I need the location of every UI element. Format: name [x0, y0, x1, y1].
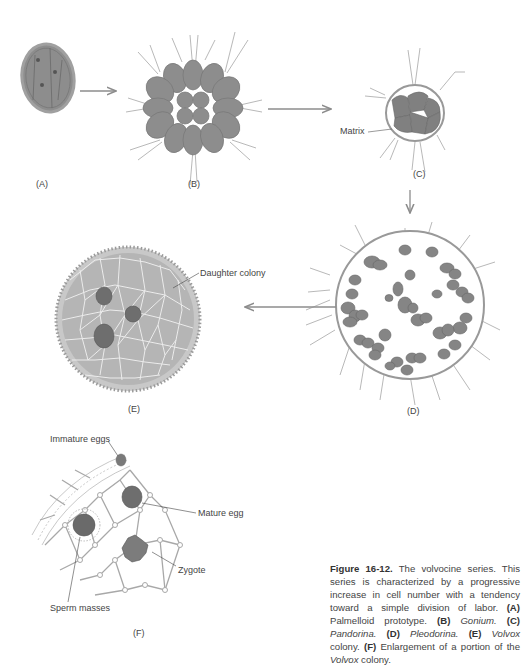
caption-item-c: Pandorina.: [330, 628, 376, 639]
figure-caption: Figure 16-12. The volvocine series. This…: [330, 562, 520, 666]
caption-key-a: (A): [507, 602, 520, 613]
caption-key-d: (D): [387, 628, 400, 639]
caption-key-c: (C): [507, 615, 520, 626]
label-sperm-masses: Sperm masses: [50, 603, 110, 613]
panel-label-c: (C): [413, 169, 426, 179]
sperm-mass-shape: [73, 514, 95, 536]
zygote-shape: [122, 535, 148, 562]
panel-c-pandorina: [365, 48, 465, 172]
caption-item-d: Pleodorina.: [410, 628, 459, 639]
panel-e-volvox: [56, 247, 200, 391]
label-mature-egg: Mature egg: [198, 508, 244, 518]
label-daughter-colony: Daughter colony: [200, 268, 266, 278]
panel-f-enlargement: [32, 441, 196, 602]
label-zygote: Zygote: [178, 565, 206, 575]
panel-b-gonium: [126, 32, 262, 185]
caption-item-e-suffix: colony.: [330, 641, 360, 652]
label-matrix: Matrix: [340, 126, 365, 136]
label-immature-eggs: Immature eggs: [50, 434, 110, 444]
panel-label-d: (D): [407, 406, 420, 416]
caption-key-e: (E): [469, 628, 482, 639]
caption-number: Figure 16-12.: [330, 563, 393, 574]
panel-label-b: (B): [188, 179, 200, 189]
caption-item-e: Volvox: [492, 628, 520, 639]
mature-egg-shape: [122, 486, 142, 508]
caption-item-f-suffix: colony.: [358, 654, 390, 665]
immature-egg-shape: [116, 454, 126, 466]
panel-label-f: (F): [133, 628, 145, 638]
caption-key-f: (F): [364, 641, 376, 652]
caption-key-b: (B): [437, 615, 450, 626]
panel-label-a: (A): [36, 179, 48, 189]
panel-label-e: (E): [128, 404, 140, 414]
caption-item-f: Enlargement of a portion of the: [380, 641, 520, 652]
caption-item-a: Palmelloid prototype.: [330, 615, 427, 626]
caption-item-b: Gonium.: [460, 615, 496, 626]
caption-item-f-italic: Volvox: [330, 654, 358, 665]
panel-d-pleodorina: [306, 222, 500, 405]
panel-a-palmelloid: [18, 41, 79, 116]
